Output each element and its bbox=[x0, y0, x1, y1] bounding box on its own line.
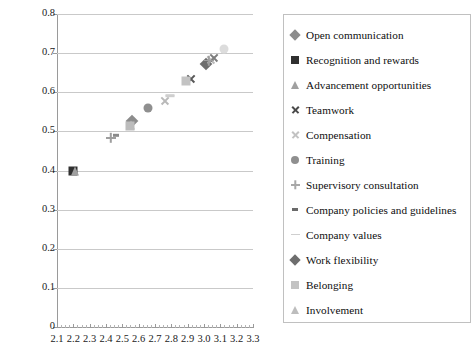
legend-item-open-communication[interactable]: Open communication bbox=[284, 22, 470, 47]
x-axis-tick-mark bbox=[171, 324, 172, 328]
legend-item-label: Open communication bbox=[306, 29, 404, 41]
legend-item-involvement[interactable]: Involvement bbox=[284, 297, 470, 322]
x-axis-minor-tick bbox=[147, 325, 148, 328]
y-axis-tick-label: 0.2 bbox=[15, 243, 55, 253]
x-axis-minor-tick bbox=[184, 325, 185, 328]
x-axis-minor-tick bbox=[130, 325, 131, 328]
legend-item-label: Belonging bbox=[306, 279, 353, 291]
x-axis-minor-tick bbox=[159, 325, 160, 328]
circle-marker-icon bbox=[284, 149, 306, 171]
legend-item-label: Recognition and rewards bbox=[306, 54, 419, 66]
x-axis-minor-tick bbox=[94, 325, 95, 328]
legend-item-label: Company policies and guidelines bbox=[306, 204, 456, 216]
cross-marker-icon bbox=[284, 99, 306, 121]
y-axis-tick-label: 0.3 bbox=[15, 204, 55, 214]
x-axis-minor-tick bbox=[143, 325, 144, 328]
x-axis-minor-tick bbox=[179, 325, 180, 328]
legend-item-work-flexibility[interactable]: Work flexibility bbox=[284, 247, 470, 272]
y-axis-tick-label: 0.4 bbox=[15, 165, 55, 175]
x-axis-minor-tick bbox=[229, 325, 230, 328]
x-axis-minor-tick bbox=[77, 325, 78, 328]
square-marker-icon bbox=[284, 274, 306, 296]
triangle-marker-icon bbox=[284, 299, 306, 321]
x-axis-minor-tick bbox=[65, 325, 66, 328]
x-axis-tick-mark bbox=[106, 324, 107, 328]
x-axis-minor-tick bbox=[212, 325, 213, 328]
legend-item-label: Training bbox=[306, 154, 345, 166]
legend-item-recognition-and-rewards[interactable]: Recognition and rewards bbox=[284, 47, 470, 72]
legend-item-compensation[interactable]: Compensation bbox=[284, 122, 470, 147]
data-point-company-values bbox=[165, 95, 174, 97]
data-point-supervisory-consultation bbox=[204, 55, 214, 65]
x-axis-minor-tick bbox=[151, 325, 152, 328]
legend-item-belonging[interactable]: Belonging bbox=[284, 272, 470, 297]
gridline bbox=[57, 288, 253, 289]
legend-item-label: Supervisory consultation bbox=[306, 179, 419, 191]
x-axis-tick-mark bbox=[155, 324, 156, 328]
x-axis-minor-tick bbox=[163, 325, 164, 328]
data-point-advancement-opportunities bbox=[71, 166, 79, 175]
y-axis-tick-label: 0.5 bbox=[15, 125, 55, 135]
plus-marker-icon bbox=[284, 174, 306, 196]
x-axis-minor-tick bbox=[126, 325, 127, 328]
gridline bbox=[57, 171, 253, 172]
data-point-company-values bbox=[219, 45, 228, 54]
x-axis-tick-mark bbox=[204, 324, 205, 328]
diamond-marker-icon bbox=[284, 249, 306, 271]
x-axis-minor-tick bbox=[167, 325, 168, 328]
x-axis-tick-mark bbox=[188, 324, 189, 328]
legend-item-label: Involvement bbox=[306, 304, 363, 316]
dash-marker-icon bbox=[284, 199, 306, 221]
x-axis-tick-label: 3.3 bbox=[241, 333, 265, 345]
data-point-training bbox=[144, 103, 153, 112]
x-axis-minor-tick bbox=[135, 325, 136, 328]
x-axis-minor-tick bbox=[245, 325, 246, 328]
y-axis-tick-label: 0.7 bbox=[15, 47, 55, 57]
x-axis-tick-mark bbox=[220, 324, 221, 328]
legend-item-advancement-opportunities[interactable]: Advancement opportunities bbox=[284, 72, 470, 97]
x-axis-minor-tick bbox=[233, 325, 234, 328]
legend-item-label: Company values bbox=[306, 229, 382, 241]
x-axis-minor-tick bbox=[196, 325, 197, 328]
x-axis-minor-tick bbox=[98, 325, 99, 328]
data-point-compensation bbox=[160, 96, 170, 106]
legend-item-company-policies-and-guidelines[interactable]: Company policies and guidelines bbox=[284, 197, 470, 222]
x-axis-minor-tick bbox=[61, 325, 62, 328]
legend-item-teamwork[interactable]: Teamwork bbox=[284, 97, 470, 122]
x-axis-minor-tick bbox=[82, 325, 83, 328]
gridline bbox=[57, 210, 253, 211]
data-point-belonging bbox=[125, 121, 134, 130]
x-axis-minor-tick bbox=[224, 325, 225, 328]
diamond-marker-icon bbox=[284, 24, 306, 46]
data-point-company-policies-and-guidelines bbox=[113, 134, 119, 136]
x-axis-tick-mark bbox=[90, 324, 91, 328]
x-axis-minor-tick bbox=[200, 325, 201, 328]
x-axis-minor-tick bbox=[114, 325, 115, 328]
x-axis-minor-tick bbox=[69, 325, 70, 328]
gridline bbox=[57, 14, 253, 15]
x-axis-minor-tick bbox=[102, 325, 103, 328]
x-axis-minor-tick bbox=[175, 325, 176, 328]
x-axis-minor-tick bbox=[216, 325, 217, 328]
x-axis-tick-mark bbox=[122, 324, 123, 328]
x-axis-tick-mark bbox=[139, 324, 140, 328]
x-axis-minor-tick bbox=[192, 325, 193, 328]
legend-item-supervisory-consultation[interactable]: Supervisory consultation bbox=[284, 172, 470, 197]
x-axis-tick-mark bbox=[57, 324, 58, 328]
legend-item-label: Teamwork bbox=[306, 104, 354, 116]
data-point-belonging bbox=[182, 76, 191, 85]
y-axis-tick-label: 0.8 bbox=[15, 8, 55, 18]
x-axis-minor-tick bbox=[208, 325, 209, 328]
cross-marker-icon bbox=[284, 124, 306, 146]
triangle-marker-icon bbox=[284, 74, 306, 96]
scatter-chart: 00.10.20.30.40.50.60.70.8 2.12.22.32.42.… bbox=[0, 0, 475, 355]
legend-item-label: Advancement opportunities bbox=[306, 79, 431, 91]
legend-item-label: Compensation bbox=[306, 129, 371, 141]
x-axis-minor-tick bbox=[110, 325, 111, 328]
legend-item-training[interactable]: Training bbox=[284, 147, 470, 172]
y-axis-tick-label: 0.6 bbox=[15, 86, 55, 96]
y-axis-tick-label: 0.1 bbox=[15, 282, 55, 292]
x-axis-tick-mark bbox=[253, 324, 254, 328]
gridline bbox=[57, 92, 253, 93]
legend-item-company-values[interactable]: Company values bbox=[284, 222, 470, 247]
